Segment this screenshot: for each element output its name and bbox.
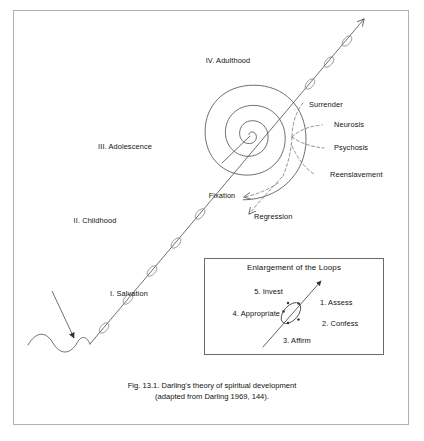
stage-label-adolescence: III. Adolescence: [98, 143, 152, 152]
step-dot-confess: [297, 318, 299, 320]
caption-line-1: Fig. 13.1. Darling's theory of spiritual…: [42, 381, 382, 392]
diagram-canvas: [0, 0, 424, 441]
inset-step-label-appropriate: 4. Appropriate: [233, 310, 280, 319]
figure-caption: Fig. 13.1. Darling's theory of spiritual…: [42, 381, 382, 403]
figure-container: I. Salvation II. Childhood III. Adolesce…: [0, 0, 424, 441]
inset-step-label-assess: 1. Assess: [320, 299, 353, 308]
step-dot-appropriate: [282, 310, 284, 312]
deviation-label-regression: Regression: [254, 213, 292, 222]
inset-title: Enlargement of the Loops: [247, 263, 341, 272]
inset-step-label-invest: 5. Invest: [254, 288, 283, 297]
outcome-label-surrender: Surrender: [309, 101, 343, 110]
outcome-label-neurosis: Neurosis: [334, 121, 364, 130]
inset-step-label-confess: 2. Confess: [322, 320, 358, 329]
outcome-label-reenslavement: Reenslavement: [330, 171, 383, 180]
deviation-label-fixation: Fixation: [209, 192, 236, 201]
outcome-label-psychosis: Psychosis: [334, 144, 368, 153]
step-dot-affirm: [287, 322, 289, 324]
inset-step-label-affirm: 3. Affirm: [283, 337, 311, 346]
step-dot-assess: [297, 302, 299, 304]
stage-label-adulthood: IV. Adulthood: [206, 57, 251, 66]
stage-label-salvation: I. Salvation: [110, 290, 148, 299]
stage-label-childhood: II. Childhood: [74, 217, 117, 226]
caption-line-2: (adapted from Darling 1969, 144).: [42, 392, 382, 403]
step-dot-invest: [287, 302, 289, 304]
